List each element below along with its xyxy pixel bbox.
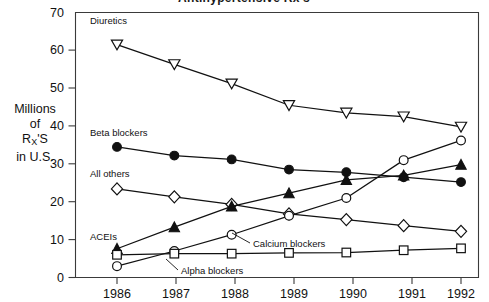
data-point bbox=[226, 79, 237, 89]
y-tick-label-30: 30 bbox=[50, 157, 64, 171]
x-axis-tick-labels: 1986 1987 1988 1989 1990 1991 1992 bbox=[103, 287, 475, 301]
data-point bbox=[113, 250, 122, 259]
data-point bbox=[227, 249, 236, 258]
data-point bbox=[457, 244, 466, 253]
data-point bbox=[285, 249, 294, 258]
annotation-beta-blockers: Beta blockers bbox=[90, 127, 148, 138]
data-point bbox=[456, 159, 466, 169]
data-point bbox=[457, 136, 466, 145]
y-tick-label-70: 70 bbox=[50, 6, 64, 20]
x-tick-label-1989: 1989 bbox=[280, 287, 308, 301]
chart-figure: Antihypertensive Rx's Millions of RX'S i… bbox=[0, 0, 489, 302]
x-tick-label-1991: 1991 bbox=[398, 287, 426, 301]
data-point bbox=[399, 156, 408, 165]
data-point bbox=[457, 178, 466, 187]
data-point bbox=[111, 40, 122, 50]
y-tick-label-0: 0 bbox=[57, 271, 64, 285]
y-tick-label-60: 60 bbox=[50, 43, 64, 57]
x-tick-label-1988: 1988 bbox=[221, 287, 249, 301]
annotation-aceis: ACEIs bbox=[90, 231, 117, 242]
data-point bbox=[285, 165, 294, 174]
x-tick-label-1990: 1990 bbox=[339, 287, 367, 301]
data-point bbox=[227, 155, 236, 164]
data-point bbox=[113, 142, 122, 151]
y-tick-label-20: 20 bbox=[50, 195, 64, 209]
leader-alpha-blockers bbox=[166, 259, 178, 270]
annotation-calcium-blockers: Calcium blockers bbox=[253, 238, 326, 249]
x-axis-ticks bbox=[117, 278, 461, 285]
annotation-diuretics: Diuretics bbox=[90, 15, 127, 26]
series-layer bbox=[111, 40, 466, 270]
series-beta-blockers bbox=[113, 142, 466, 186]
y-tick-label-10: 10 bbox=[50, 233, 64, 247]
series-diuretics bbox=[111, 40, 466, 132]
y-axis-ticks bbox=[69, 50, 76, 277]
data-point bbox=[398, 220, 409, 232]
x-tick-label-1992: 1992 bbox=[447, 287, 475, 301]
y-axis-tick-labels: 0 10 20 30 40 50 60 70 bbox=[50, 6, 64, 285]
data-point bbox=[342, 248, 351, 257]
x-tick-label-1987: 1987 bbox=[162, 287, 190, 301]
data-point bbox=[169, 60, 180, 70]
annotation-all-others: All others bbox=[90, 168, 130, 179]
series-line bbox=[117, 147, 461, 182]
x-tick-label-1986: 1986 bbox=[103, 287, 131, 301]
series-annotations: Diuretics Beta blockers All others ACEIs… bbox=[90, 15, 326, 276]
data-point bbox=[111, 183, 122, 195]
data-point bbox=[170, 151, 179, 160]
y-tick-label-40: 40 bbox=[50, 119, 64, 133]
data-point bbox=[342, 194, 351, 203]
data-point bbox=[169, 222, 179, 232]
chart-canvas: 0 10 20 30 40 50 60 70 1986 1987 1988 19… bbox=[0, 0, 489, 302]
data-point bbox=[455, 122, 466, 132]
series-line bbox=[117, 45, 461, 127]
data-point bbox=[341, 214, 352, 226]
data-point bbox=[169, 191, 180, 203]
data-point bbox=[170, 249, 179, 258]
data-point bbox=[399, 246, 408, 255]
annotation-alpha-blockers: Alpha blockers bbox=[181, 265, 244, 276]
data-point bbox=[113, 262, 122, 271]
y-tick-label-50: 50 bbox=[50, 81, 64, 95]
data-point bbox=[455, 225, 466, 237]
data-point bbox=[285, 211, 294, 220]
